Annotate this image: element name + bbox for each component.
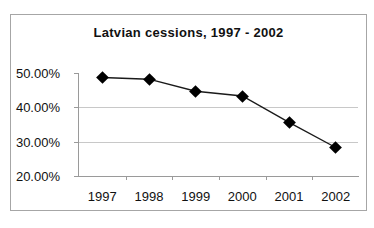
y-axis-label-50: 50.00%: [0, 67, 60, 80]
x-axis-label-2002: 2002: [306, 189, 366, 204]
x-axis-tick-2: [172, 176, 173, 180]
chart-frame: Latvian cessions, 1997 - 2002 50.00% 40.…: [10, 14, 367, 211]
y-axis-label-30: 30.00%: [0, 136, 60, 149]
chart-title: Latvian cessions, 1997 - 2002: [11, 25, 366, 40]
x-axis-tick-4: [266, 176, 267, 180]
x-axis-tick-5: [312, 176, 313, 180]
y-axis-label-40: 40.00%: [0, 101, 60, 114]
chart-screenshot: Latvian cessions, 1997 - 2002 50.00% 40.…: [0, 0, 374, 228]
x-axis-tick-3: [219, 176, 220, 180]
series-line: [78, 73, 358, 177]
x-axis-tick-1: [126, 176, 127, 180]
y-axis-label-20: 20.00%: [0, 170, 60, 183]
plot-area: 50.00% 40.00% 30.00% 20.00% 199719981999…: [78, 73, 358, 176]
